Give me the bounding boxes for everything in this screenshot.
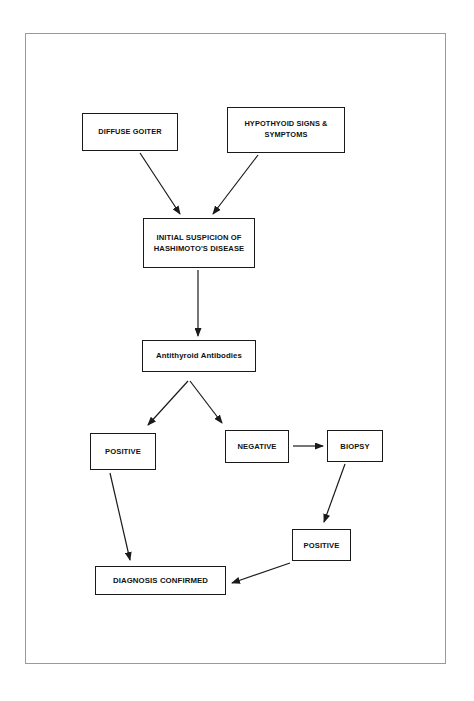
diagram-page: DIFFUSE GOITER HYPOTHYOID SIGNS & SYMPTO…	[0, 0, 474, 701]
node-positive-lower[interactable]: POSITIVE	[292, 529, 351, 561]
node-label-hypothyroid-line2: SYMPTOMS	[265, 130, 308, 139]
edge-hypothyroid-to-initial-suspicion	[213, 155, 258, 214]
edge-biopsy-to-positive-lower	[324, 464, 345, 522]
edge-positive-lower-to-diagnosis	[232, 563, 290, 583]
node-label-initial-suspicion-line2: HASHIMOTO'S DISEASE	[154, 244, 245, 253]
node-hypothyroid-signs[interactable]: HYPOTHYOID SIGNS & SYMPTOMS	[227, 107, 345, 153]
node-label-hypothyroid-signs: HYPOTHYOID SIGNS & SYMPTOMS	[240, 119, 331, 140]
node-negative[interactable]: NEGATIVE	[225, 430, 289, 463]
node-label-positive-lower: POSITIVE	[300, 540, 344, 551]
node-label-negative: NEGATIVE	[233, 441, 280, 452]
node-diffuse-goiter[interactable]: DIFFUSE GOITER	[82, 113, 178, 151]
node-label-positive-left: POSITIVE	[101, 446, 145, 457]
edge-positive-left-to-diagnosis	[110, 473, 130, 560]
node-antithyroid-antibodies[interactable]: Antithyroid Antibodies	[142, 340, 256, 372]
node-positive-left[interactable]: POSITIVE	[90, 433, 156, 470]
node-label-antithyroid-antibodies: Antithyroid Antibodies	[152, 350, 246, 361]
node-label-biopsy: BIOPSY	[336, 441, 373, 452]
node-label-diagnosis-confirmed: DIAGNOSIS CONFIRMED	[109, 575, 212, 586]
node-initial-suspicion[interactable]: INITIAL SUSPICION OF HASHIMOTO'S DISEASE	[143, 218, 255, 268]
edge-antithyroid-to-negative	[190, 381, 222, 423]
node-label-hypothyroid-line1: HYPOTHYOID SIGNS &	[244, 119, 327, 128]
node-label-initial-suspicion: INITIAL SUSPICION OF HASHIMOTO'S DISEASE	[150, 232, 249, 254]
node-biopsy[interactable]: BIOPSY	[327, 430, 383, 462]
node-label-initial-suspicion-line1: INITIAL SUSPICION OF	[157, 233, 242, 242]
edge-diffuse-goiter-to-initial-suspicion	[140, 153, 180, 214]
node-label-diffuse-goiter: DIFFUSE GOITER	[94, 127, 165, 138]
edge-antithyroid-to-positive-left	[148, 381, 188, 425]
node-diagnosis-confirmed[interactable]: DIAGNOSIS CONFIRMED	[95, 566, 226, 595]
